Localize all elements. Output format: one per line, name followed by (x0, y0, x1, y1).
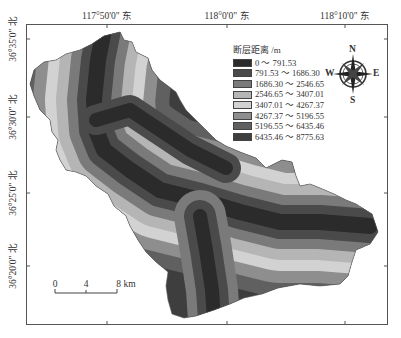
legend-swatch (233, 59, 252, 67)
legend-swatch (233, 133, 252, 141)
legend-label: 0 ～ 791.53 (255, 58, 296, 69)
compass-rose-icon (333, 54, 373, 94)
legend-item: 6435.46 ～ 8775.63 (233, 132, 324, 143)
legend-title: 断层距离 /m (233, 45, 324, 56)
top-axis-label: 118°0'0" 东 (204, 8, 249, 22)
legend-item: 4267.37 ～ 5196.55 (233, 111, 324, 122)
legend-item: 0 ～ 791.53 (233, 58, 324, 69)
compass-east-label: E (373, 68, 379, 78)
legend-label: 3407.01 ～ 4267.37 (255, 100, 324, 111)
left-axis-label: 36°30'0" 北 (5, 94, 19, 140)
compass-south-label: S (350, 95, 355, 105)
scale-label-8km: 8 km (116, 279, 135, 289)
legend-swatch (233, 122, 252, 130)
legend: 断层距离 /m 0 ～ 791.53 791.53 ～ 1686.30 1686… (233, 45, 324, 142)
legend-label: 791.53 ～ 1686.30 (255, 68, 320, 79)
legend-label: 1686.30 ～ 2546.65 (255, 79, 324, 90)
left-axis-label: 36°20'0" 北 (5, 243, 19, 289)
scale-label-0: 0 (53, 279, 58, 289)
scale-label-4: 4 (84, 279, 89, 289)
fault-distance-map (0, 0, 401, 338)
top-axis-label: 117°50'0" 东 (82, 8, 132, 22)
legend-swatch (233, 91, 252, 99)
legend-label: 4267.37 ～ 5196.55 (255, 111, 324, 122)
legend-item: 1686.30 ～ 2546.65 (233, 79, 324, 90)
compass-north-label: N (349, 44, 356, 54)
legend-swatch (233, 101, 252, 109)
top-axis-label: 118°10'0" 东 (320, 8, 370, 22)
legend-swatch (233, 69, 252, 77)
scale-bar (55, 289, 117, 293)
left-axis-label: 36°35'0" 北 (5, 16, 19, 62)
legend-label: 2546.65 ～ 3407.01 (255, 89, 324, 100)
legend-label: 6435.46 ～ 8775.63 (255, 132, 324, 143)
left-axis-label: 36°25'0" 北 (5, 170, 19, 216)
legend-item: 3407.01 ～ 4267.37 (233, 100, 324, 111)
legend-swatch (233, 112, 252, 120)
compass-west-label: W (325, 68, 335, 78)
legend-label: 5196.55 ～ 6435.46 (255, 121, 324, 132)
legend-item: 2546.65 ～ 3407.01 (233, 89, 324, 100)
legend-swatch (233, 80, 252, 88)
legend-item: 791.53 ～ 1686.30 (233, 68, 324, 79)
legend-item: 5196.55 ～ 6435.46 (233, 121, 324, 132)
